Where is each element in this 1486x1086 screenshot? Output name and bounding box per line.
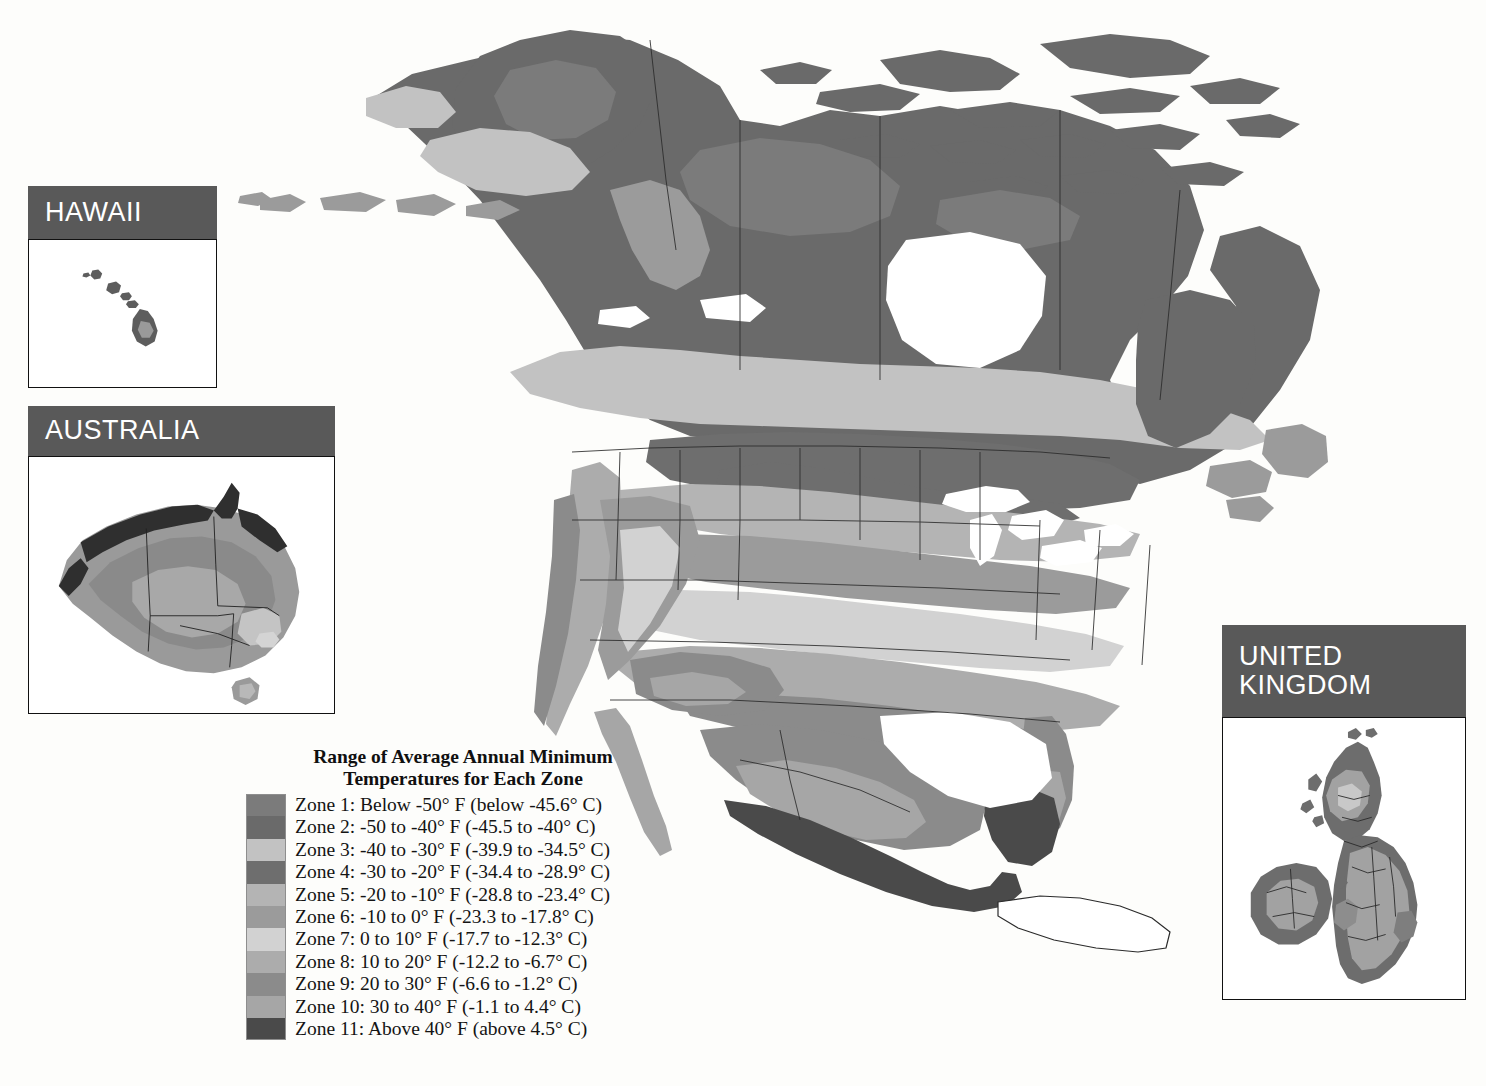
legend-label: Zone 2: -50 to -40° F (-45.5 to -40° C) <box>286 816 595 838</box>
legend-title-line2: Temperatures for Each Zone <box>268 768 658 790</box>
legend-row: Zone 11: Above 40° F (above 4.5° C) <box>246 1018 666 1040</box>
inset-uk-title-line1: UNITED <box>1239 641 1343 671</box>
legend-label: Zone 8: 10 to 20° F (-12.2 to -6.7° C) <box>286 951 587 973</box>
inset-hawaii-body <box>28 239 217 388</box>
legend-swatch <box>246 928 286 950</box>
inset-uk-body <box>1222 717 1466 1000</box>
legend-title: Range of Average Annual Minimum Temperat… <box>268 746 658 790</box>
hawaii-islands <box>82 270 157 347</box>
legend-swatch <box>246 1018 286 1040</box>
legend-swatch <box>246 839 286 861</box>
legend-label: Zone 5: -20 to -10° F (-28.8 to -23.4° C… <box>286 884 610 906</box>
legend-label: Zone 1: Below -50° F (below -45.6° C) <box>286 794 602 816</box>
legend-label: Zone 7: 0 to 10° F (-17.7 to -12.3° C) <box>286 928 587 950</box>
inset-australia-header: AUSTRALIA <box>28 406 335 456</box>
legend-title-line1: Range of Average Annual Minimum <box>268 746 658 768</box>
legend-swatch <box>246 861 286 883</box>
maritimes <box>1206 460 1272 498</box>
legend-row: Zone 6: -10 to 0° F (-23.3 to -17.8° C) <box>246 906 666 928</box>
legend-row: Zone 3: -40 to -30° F (-39.9 to -34.5° C… <box>246 839 666 861</box>
inset-hawaii-header: HAWAII <box>28 186 217 239</box>
legend-label: Zone 9: 20 to 30° F (-6.6 to -1.2° C) <box>286 973 578 995</box>
legend-swatch <box>246 906 286 928</box>
central-america-outline <box>998 896 1170 952</box>
inset-uk-header: UNITED KINGDOM <box>1222 625 1466 717</box>
legend-swatch <box>246 884 286 906</box>
legend-label: Zone 3: -40 to -30° F (-39.9 to -34.5° C… <box>286 839 610 861</box>
legend-row: Zone 4: -30 to -20° F (-34.4 to -28.9° C… <box>246 861 666 883</box>
legend-rows: Zone 1: Below -50° F (below -45.6° C)Zon… <box>246 794 666 1040</box>
legend-row: Zone 9: 20 to 30° F (-6.6 to -1.2° C) <box>246 973 666 995</box>
inset-australia-body <box>28 456 335 714</box>
newfoundland <box>1262 424 1328 478</box>
legend: Range of Average Annual Minimum Temperat… <box>246 746 666 1040</box>
legend-label: Zone 11: Above 40° F (above 4.5° C) <box>286 1018 587 1040</box>
legend-label: Zone 10: 30 to 40° F (-1.1 to 4.4° C) <box>286 996 581 1018</box>
legend-swatch <box>246 951 286 973</box>
inset-uk-title: UNITED KINGDOM <box>1239 642 1372 700</box>
legend-label: Zone 6: -10 to 0° F (-23.3 to -17.8° C) <box>286 906 594 928</box>
inset-uk-title-line2: KINGDOM <box>1239 670 1372 700</box>
inset-hawaii: HAWAII <box>28 186 217 388</box>
legend-swatch <box>246 816 286 838</box>
legend-row: Zone 10: 30 to 40° F (-1.1 to 4.4° C) <box>246 996 666 1018</box>
legend-row: Zone 8: 10 to 20° F (-12.2 to -6.7° C) <box>246 951 666 973</box>
legend-swatch <box>246 973 286 995</box>
legend-row: Zone 2: -50 to -40° F (-45.5 to -40° C) <box>246 816 666 838</box>
mexico-central-america <box>700 712 1170 952</box>
inset-uk: UNITED KINGDOM <box>1222 625 1466 1000</box>
legend-row: Zone 7: 0 to 10° F (-17.7 to -12.3° C) <box>246 928 666 950</box>
inset-australia-title: AUSTRALIA <box>45 416 200 445</box>
inset-australia: AUSTRALIA <box>28 406 335 714</box>
legend-swatch <box>246 996 286 1018</box>
legend-swatch <box>246 794 286 816</box>
inset-hawaii-title: HAWAII <box>45 198 142 227</box>
legend-row: Zone 5: -20 to -10° F (-28.8 to -23.4° C… <box>246 884 666 906</box>
nova-scotia <box>1226 496 1274 522</box>
legend-row: Zone 1: Below -50° F (below -45.6° C) <box>246 794 666 816</box>
legend-label: Zone 4: -30 to -20° F (-34.4 to -28.9° C… <box>286 861 610 883</box>
hardiness-zone-map-page: Range of Average Annual Minimum Temperat… <box>0 0 1486 1086</box>
